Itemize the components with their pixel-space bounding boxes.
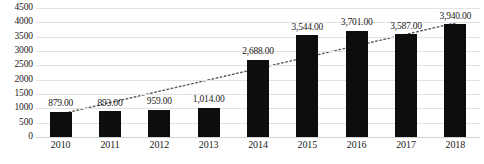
gridline: [36, 137, 480, 138]
x-axis-tick-label: 2018: [431, 140, 480, 150]
y-axis-tick-label: 1000: [14, 104, 33, 114]
bar[interactable]: [296, 35, 318, 137]
y-axis-tick-label: 4000: [14, 18, 33, 28]
bar-value-label: 1,014.00: [193, 95, 225, 105]
bar-value-label: 3,701.00: [341, 18, 373, 28]
x-axis-tick-label: 2015: [283, 140, 332, 150]
y-axis-tick-label: 2000: [14, 75, 33, 85]
bar[interactable]: [99, 111, 121, 137]
y-axis-tick-label: 3000: [14, 46, 33, 56]
bar-value-label: 959.00: [147, 97, 172, 107]
bar-group: 3,701.00: [332, 8, 381, 137]
bar[interactable]: [444, 24, 466, 137]
x-axis-tick-label: 2016: [332, 140, 381, 150]
bar[interactable]: [148, 110, 170, 137]
y-axis-tick-label: 500: [19, 118, 33, 128]
x-axis-tick-label: 2010: [36, 140, 85, 150]
y-axis-tick-label: 3500: [14, 32, 33, 42]
x-axis-tick-label: 2011: [85, 140, 134, 150]
bar-value-label: 3,587.00: [390, 22, 422, 32]
y-axis-tick-label: 4500: [14, 3, 33, 13]
x-axis-tick-label: 2012: [135, 140, 184, 150]
bar[interactable]: [50, 112, 72, 137]
y-axis-tick-label: 2500: [14, 61, 33, 71]
bar-value-label: 893.00: [98, 99, 123, 109]
bar-chart: 050010001500200025003000350040004500 879…: [0, 0, 484, 164]
bar-value-label: 2,688.00: [242, 47, 274, 57]
bar-value-label: 3,940.00: [439, 12, 471, 22]
bar-group: 2,688.00: [233, 8, 282, 137]
bar[interactable]: [395, 34, 417, 137]
bar-group: 3,587.00: [381, 8, 430, 137]
x-axis-tick-label: 2013: [184, 140, 233, 150]
bar[interactable]: [198, 108, 220, 137]
bar-group: 3,544.00: [283, 8, 332, 137]
y-axis: 050010001500200025003000350040004500: [0, 8, 33, 137]
bar[interactable]: [247, 60, 269, 137]
x-axis: 201020112012201320142015201620172018: [36, 140, 480, 160]
y-axis-tick-label: 1500: [14, 89, 33, 99]
y-axis-tick-label: 0: [28, 132, 33, 142]
bar-group: 879.00: [36, 8, 85, 137]
plot-area: 879.00893.00959.001,014.002,688.003,544.…: [36, 8, 480, 137]
bar[interactable]: [346, 31, 368, 137]
bar-value-label: 879.00: [48, 99, 73, 109]
x-axis-tick-label: 2014: [233, 140, 282, 150]
bar-group: 959.00: [135, 8, 184, 137]
bar-value-label: 3,544.00: [291, 23, 323, 33]
bar-group: 3,940.00: [431, 8, 480, 137]
x-axis-tick-label: 2017: [381, 140, 430, 150]
bar-group: 1,014.00: [184, 8, 233, 137]
bar-group: 893.00: [85, 8, 134, 137]
